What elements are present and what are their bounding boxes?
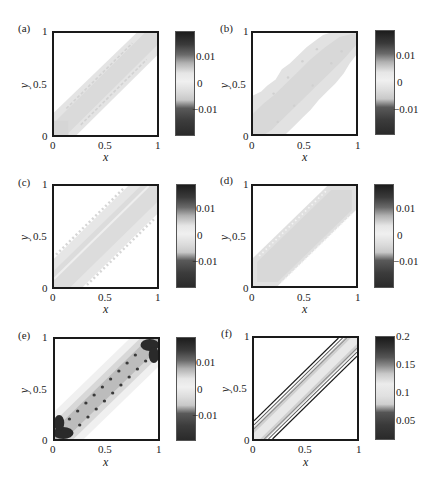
cbar-tick-0.1: 0.1: [396, 387, 410, 398]
colorbar: [375, 336, 395, 440]
y-tick-0.5: 0.5: [33, 384, 47, 395]
panel-label: (a): [18, 22, 30, 34]
x-axis-label: x: [303, 455, 308, 470]
y-axis-label: y: [17, 388, 32, 393]
cbar-tick-neg-0.01: −0.01: [393, 256, 418, 267]
cbar-tick-0: 0: [197, 78, 203, 89]
x-tick-0: 0: [249, 140, 255, 151]
contour-graphic: [253, 186, 356, 286]
cbar-tick-neg-0.01: −0.01: [192, 410, 217, 421]
y-tick-0: 0: [243, 131, 249, 142]
x-tick-1: 1: [156, 444, 162, 455]
y-tick-0: 0: [244, 435, 250, 446]
y-tick-0.5: 0.5: [33, 79, 47, 90]
x-tick-0: 0: [249, 292, 255, 303]
contour-graphic: [54, 186, 157, 287]
cbar-tick-neg-0.01: −0.01: [192, 256, 217, 267]
y-axis-label: y: [217, 83, 232, 88]
contour-plot: [52, 184, 159, 289]
cbar-tick-0.01: 0.01: [196, 357, 215, 368]
y-tick-0.5: 0.5: [233, 383, 247, 394]
y-tick-0: 0: [42, 283, 48, 294]
panel-label: (b): [220, 22, 233, 34]
x-axis-label: x: [103, 150, 108, 165]
x-tick-0: 0: [50, 140, 56, 151]
cbar-tick-0.01: 0.01: [196, 203, 215, 214]
panel-label: (c): [18, 176, 30, 188]
contour-graphic: [253, 33, 356, 134]
colorbar: [374, 184, 394, 288]
colorbar: [176, 184, 196, 288]
colorbar: [175, 31, 195, 136]
y-tick-0.5: 0.5: [232, 231, 246, 242]
x-tick-1: 1: [155, 140, 161, 151]
panel-label: (e): [18, 329, 30, 341]
panel-label: (f): [221, 327, 232, 339]
y-tick-0.5: 0.5: [232, 79, 246, 90]
y-tick-1: 1: [243, 179, 249, 190]
y-tick-0: 0: [42, 435, 48, 446]
cbar-tick-0.05: 0.05: [396, 415, 415, 426]
cbar-tick-0: 0: [397, 230, 403, 241]
x-axis-label: x: [103, 455, 108, 470]
contour-plot: [251, 31, 358, 136]
y-axis-label: y: [217, 235, 232, 240]
contour-graphic: [55, 339, 158, 439]
x-axis-label: x: [103, 302, 108, 317]
cbar-tick-0.01: 0.01: [396, 203, 415, 214]
panel-label: (d): [220, 174, 233, 186]
colorbar: [176, 337, 196, 441]
y-tick-0: 0: [243, 283, 249, 294]
x-tick-0: 0: [250, 444, 256, 455]
contour-plot: [252, 336, 359, 441]
x-tick-1: 1: [355, 140, 361, 151]
y-tick-1: 1: [42, 179, 48, 190]
x-tick-0.5: 0.5: [298, 444, 312, 455]
x-tick-0: 0: [50, 292, 56, 303]
x-tick-1: 1: [355, 292, 361, 303]
cbar-tick-0.01: 0.01: [196, 51, 215, 62]
y-axis-label: y: [17, 235, 32, 240]
y-tick-0: 0: [42, 131, 48, 142]
x-tick-0.5: 0.5: [98, 444, 112, 455]
y-tick-1: 1: [243, 26, 249, 37]
contour-graphic: [254, 338, 357, 439]
cbar-tick-neg-0.01: −0.01: [192, 104, 217, 115]
cbar-tick-0.2: 0.2: [396, 331, 410, 342]
y-tick-1: 1: [42, 332, 48, 343]
y-tick-1: 1: [42, 26, 48, 37]
contour-plot: [251, 184, 358, 288]
cbar-tick-0: 0: [397, 77, 403, 88]
contour-graphic: [54, 33, 157, 135]
cbar-tick-0: 0: [197, 384, 203, 395]
contour-plot: [53, 337, 160, 441]
y-tick-0.5: 0.5: [33, 231, 47, 242]
y-axis-label: y: [17, 83, 32, 88]
y-tick-1: 1: [244, 331, 250, 342]
cbar-tick-0.01: 0.01: [396, 50, 415, 61]
x-tick-1: 1: [155, 292, 161, 303]
x-tick-0: 0: [50, 444, 56, 455]
cbar-tick-0.15: 0.15: [396, 359, 415, 370]
colorbar: [375, 30, 395, 135]
x-tick-1: 1: [356, 444, 362, 455]
cbar-tick-neg-0.01: −0.01: [393, 104, 418, 115]
cbar-tick-0: 0: [197, 230, 203, 241]
contour-plot: [52, 31, 159, 137]
x-axis-label: x: [302, 302, 307, 317]
y-axis-label: y: [218, 387, 233, 392]
x-axis-label: x: [302, 150, 307, 165]
